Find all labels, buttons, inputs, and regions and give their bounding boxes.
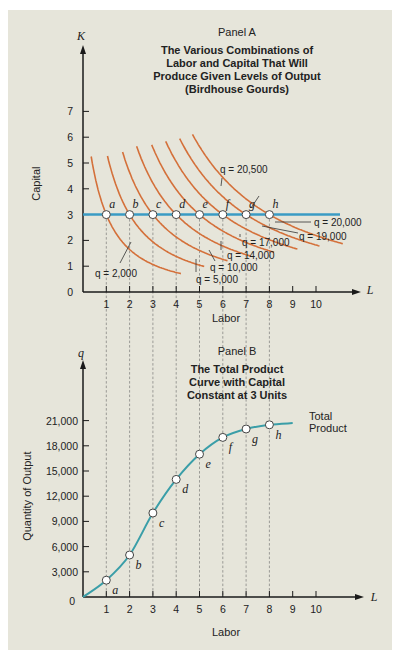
k-tick-label: 4 — [67, 183, 73, 195]
point-marker — [102, 211, 110, 219]
l-tick-label: 1 — [103, 298, 109, 310]
l-tick-label: 2 — [127, 298, 133, 310]
point-label: g — [252, 432, 258, 446]
l-tick-label: 4 — [173, 603, 179, 615]
q-tick-label: 6,000 — [52, 541, 78, 553]
y-axis-label-a: Capital — [30, 167, 42, 201]
k-tick-label: 7 — [67, 105, 73, 117]
isoquant-label: q = 17,000 — [242, 237, 290, 248]
q-tick-label: 9,000 — [52, 515, 78, 527]
point-marker — [196, 211, 204, 219]
l-tick-label: 10 — [310, 603, 322, 615]
q-tick-label: 0 — [69, 595, 75, 607]
panel-a-title: The Various Combinations of — [161, 44, 314, 56]
point-marker — [265, 421, 273, 429]
l-tick-label: 8 — [266, 298, 272, 310]
curve-label: Total — [309, 410, 332, 422]
point-marker — [242, 425, 250, 433]
k-tick-label: 6 — [67, 131, 73, 143]
k-tick-label: 3 — [67, 209, 73, 221]
panel-a-label: Panel A — [218, 26, 257, 38]
leader-line — [221, 178, 222, 186]
isoquant-label: q = 14,000 — [227, 250, 275, 261]
panel-b-title: Curve with Capital — [189, 376, 285, 388]
panel-b-label: Panel B — [218, 345, 257, 357]
l-tick-label: 8 — [266, 603, 272, 615]
point-label: e — [203, 197, 209, 211]
x-axis-label-b: Labor — [212, 626, 240, 638]
point-marker — [219, 211, 227, 219]
isoquant-label: q = 5,000 — [196, 274, 238, 285]
point-label: h — [275, 428, 281, 442]
point-label: c — [156, 197, 162, 211]
l-tick-label: 1 — [103, 603, 109, 615]
l-tick-label: 6 — [220, 298, 226, 310]
isoquant-curve — [180, 139, 320, 246]
l-tick-label: 7 — [243, 298, 249, 310]
point-marker — [172, 211, 180, 219]
l-tick-label: 9 — [290, 603, 296, 615]
isoquant-label: q = 20,000 — [314, 217, 362, 228]
total-product-curve — [83, 423, 293, 597]
point-marker — [196, 450, 204, 458]
l-tick-label: 3 — [150, 603, 156, 615]
k-tick-label: 0 — [67, 286, 73, 298]
q-tick-label: 18,000 — [46, 440, 78, 452]
l-tick-label: 9 — [290, 298, 296, 310]
l-tick-label: 5 — [197, 603, 203, 615]
k-axis-symbol: K — [76, 29, 86, 43]
l-tick-label: 2 — [127, 603, 133, 615]
k-tick-label: 2 — [67, 234, 73, 246]
panel-a-title: Labor and Capital That Will — [166, 57, 308, 69]
k-tick-label: 1 — [67, 260, 73, 272]
panel-a: Panel AThe Various Combinations ofLabor … — [30, 26, 374, 597]
q-tick-label: 21,000 — [46, 415, 78, 427]
point-label: e — [206, 457, 212, 471]
l-tick-label: 3 — [150, 298, 156, 310]
point-label: h — [272, 197, 278, 211]
curve-label: Product — [309, 422, 347, 434]
point-label: f — [229, 440, 234, 454]
l-axis-arrow-icon — [352, 289, 361, 295]
q-tick-label: 3,000 — [52, 566, 78, 578]
panel-b-title: The Total Product — [191, 363, 284, 375]
l-tick-label: 7 — [243, 603, 249, 615]
l-axis-symbol-a: L — [366, 283, 374, 297]
y-axis-label-b: Quantity of Output — [21, 452, 33, 541]
production-chart: Panel AThe Various Combinations ofLabor … — [0, 0, 398, 656]
l-axis-symbol-b: L — [370, 590, 378, 604]
point-marker — [172, 475, 180, 483]
point-label: b — [136, 558, 142, 572]
point-label: a — [112, 583, 118, 597]
point-marker — [126, 551, 134, 559]
point-marker — [102, 576, 110, 584]
isoquant-curve — [166, 141, 298, 249]
panel-a-title: Produce Given Levels of Output — [153, 70, 321, 82]
k-tick-label: 5 — [67, 157, 73, 169]
point-label: c — [159, 516, 165, 530]
isoquant-label: q = 10,000 — [210, 262, 258, 273]
point-marker — [265, 211, 273, 219]
point-label: a — [109, 197, 115, 211]
panel-a-title: (Birdhouse Gourds) — [185, 83, 289, 95]
isoquant-label: q = 2,000 — [95, 268, 137, 279]
point-marker — [149, 211, 157, 219]
isoquant-label: q = 20,500 — [220, 164, 268, 175]
point-label: d — [179, 197, 186, 211]
point-label: d — [182, 482, 189, 496]
point-label: b — [133, 197, 139, 211]
l-tick-label: 10 — [310, 298, 322, 310]
point-marker — [149, 509, 157, 517]
q-axis-arrow-icon — [80, 360, 86, 369]
x-axis-label-a: Labor — [212, 312, 240, 324]
q-tick-label: 12,000 — [46, 490, 78, 502]
q-axis-symbol: q — [78, 346, 84, 360]
l-axis-arrow-icon — [355, 594, 364, 600]
point-marker — [219, 433, 227, 441]
panel-b-title: Constant at 3 Units — [187, 389, 287, 401]
l-tick-label: 5 — [197, 298, 203, 310]
l-tick-label: 4 — [173, 298, 179, 310]
q-tick-label: 15,000 — [46, 465, 78, 477]
isoquant-label: q = 19,000 — [299, 231, 347, 242]
k-axis-arrow-icon — [80, 45, 86, 54]
